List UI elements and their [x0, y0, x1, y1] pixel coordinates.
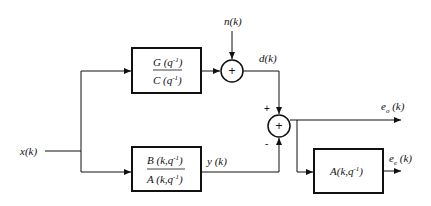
plus-sign: + — [264, 103, 270, 114]
block-diagram: x(k) G (q-1) C (q-1) n(k) + d(k) B (k,q-… — [0, 0, 431, 206]
desired-label: d(k) — [259, 52, 277, 65]
svg-text:G (q-1): G (q-1) — [153, 56, 183, 69]
d-line — [243, 71, 279, 114]
output-label: y (k) — [206, 155, 227, 168]
svg-text:C (q-1): C (q-1) — [153, 74, 182, 87]
error-e-label: ee (k) — [389, 152, 412, 167]
summing-junction-2: + — [268, 115, 290, 137]
svg-text:+: + — [275, 119, 282, 133]
summing-junction-1: + — [221, 60, 243, 82]
arrow-to-a-block — [297, 120, 313, 172]
input-label: x(k) — [19, 145, 37, 158]
noise-label: n(k) — [224, 15, 242, 28]
svg-text:+: + — [228, 64, 235, 78]
block-g-over-c: G (q-1) C (q-1) — [132, 48, 201, 93]
block-a: A(k,q-1) — [314, 149, 383, 193]
block-b-over-a: B (k,q-1) A (k,q-1) — [132, 147, 201, 191]
error-out-label: eo (k) — [381, 100, 405, 115]
minus-sign: - — [265, 138, 268, 149]
